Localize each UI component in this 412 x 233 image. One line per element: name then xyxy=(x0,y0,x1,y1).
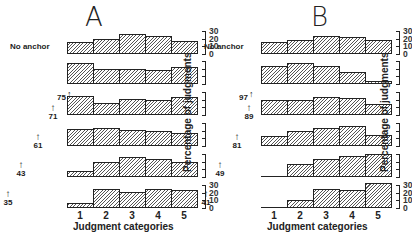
anchor-value: 49 xyxy=(213,169,227,178)
chart-title: B xyxy=(311,2,328,32)
bar xyxy=(67,42,94,54)
bar xyxy=(145,70,172,84)
y-axis xyxy=(399,92,400,116)
y-axis xyxy=(399,61,400,85)
bar xyxy=(339,37,366,54)
bar xyxy=(145,159,172,177)
bar xyxy=(287,100,314,115)
x-tick-label: 2 xyxy=(290,210,310,221)
anchor-marker: ↑41 xyxy=(199,189,213,207)
y-tick xyxy=(396,92,400,93)
bar xyxy=(313,36,340,54)
anchor-value: 75 xyxy=(57,93,66,102)
bar xyxy=(67,63,94,84)
arrow-up-icon: ↑ xyxy=(213,160,227,169)
bar xyxy=(67,203,94,208)
bar xyxy=(119,130,146,146)
arrow-up-icon: ↑ xyxy=(31,132,45,141)
arrow-up-icon: ↑ xyxy=(1,189,15,198)
bar xyxy=(339,72,366,84)
bar xyxy=(145,131,172,146)
anchor-value: 35 xyxy=(1,198,15,207)
bar xyxy=(261,207,288,208)
anchor-value: 97 xyxy=(239,93,248,102)
bar xyxy=(339,156,366,177)
x-tick-label: 4 xyxy=(148,210,168,221)
chart-title: A xyxy=(85,2,103,32)
bar-panel: 3020100 xyxy=(67,185,211,208)
bar xyxy=(365,183,392,208)
arrow-up-icon: ↑ xyxy=(230,132,244,141)
y-tick xyxy=(396,31,400,32)
y-tick xyxy=(396,138,400,139)
y-axis xyxy=(399,154,400,178)
bar xyxy=(67,96,94,115)
no-anchor-label: No anchor xyxy=(204,42,244,51)
x-tick-label: 3 xyxy=(122,210,142,221)
anchor-marker: ↑35 xyxy=(1,189,15,207)
arrow-up-icon: ↑ xyxy=(199,189,213,198)
bar xyxy=(119,34,146,54)
y-tick xyxy=(396,146,400,147)
y-tick xyxy=(396,208,400,209)
bar xyxy=(119,69,146,84)
bar xyxy=(93,162,120,177)
bar xyxy=(261,176,288,177)
bar xyxy=(313,66,340,84)
x-axis-label: Judgment categories xyxy=(267,221,368,232)
anchor-value: 71 xyxy=(46,112,60,121)
bar xyxy=(119,99,146,115)
anchor-marker: ↑89 xyxy=(242,103,256,121)
bar xyxy=(287,63,314,84)
x-axis-label: Judgment categories xyxy=(73,221,174,232)
bar xyxy=(145,36,172,54)
y-axis-label: Percentage of judgments xyxy=(182,53,193,172)
y-tick xyxy=(396,115,400,116)
bar xyxy=(313,159,340,177)
bar xyxy=(171,190,198,208)
anchor-marker: ↑49 xyxy=(213,160,227,178)
anchor-marker: ↑43 xyxy=(14,160,28,178)
bar-panel: 3020100 xyxy=(67,31,211,54)
bar xyxy=(339,98,366,115)
y-tick xyxy=(396,84,400,85)
y-tick xyxy=(396,123,400,124)
bar xyxy=(287,200,314,208)
anchor-value: 61 xyxy=(31,141,45,150)
y-tick xyxy=(396,76,400,77)
bar xyxy=(339,126,366,146)
no-anchor-label: No anchor xyxy=(10,42,50,51)
bar xyxy=(313,128,340,146)
bar-panel: 3020100 xyxy=(261,185,405,208)
bar xyxy=(313,189,340,208)
bar xyxy=(287,131,314,146)
bar xyxy=(93,103,120,115)
y-axis-label: Percentage of judgments xyxy=(379,53,390,172)
anchor-marker: ↑61 xyxy=(31,132,45,150)
x-tick-label: 5 xyxy=(174,210,194,221)
anchor-value: 89 xyxy=(242,112,256,121)
x-tick-label: 1 xyxy=(70,210,90,221)
arrow-up-icon: ↑ xyxy=(242,103,256,112)
y-tick xyxy=(396,46,400,47)
y-axis xyxy=(399,31,400,55)
bar xyxy=(119,157,146,177)
y-tick xyxy=(396,107,400,108)
arrow-up-icon: ↑ xyxy=(249,89,254,99)
bar xyxy=(313,97,340,115)
bar xyxy=(287,40,314,54)
bar xyxy=(67,171,94,177)
chart-b: B3020100No anchor97↑↑89↑81↑493020100↑411… xyxy=(197,0,393,233)
x-tick-label: 4 xyxy=(342,210,362,221)
y-tick-label: 0 xyxy=(403,50,408,58)
y-tick xyxy=(396,100,400,101)
x-tick-label: 3 xyxy=(316,210,336,221)
y-tick xyxy=(396,54,400,55)
y-tick xyxy=(396,193,400,194)
y-tick xyxy=(396,162,400,163)
y-tick xyxy=(396,39,400,40)
y-tick xyxy=(396,61,400,62)
y-tick xyxy=(396,154,400,155)
arrow-up-icon: ↑ xyxy=(46,103,60,112)
bar xyxy=(261,100,288,115)
